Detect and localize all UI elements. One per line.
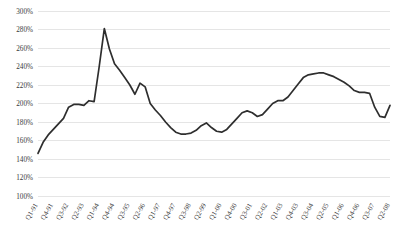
- line-chart: 100%120%140%160%180%200%220%240%260%280%…: [0, 0, 401, 244]
- gridlines: [38, 11, 390, 196]
- y-axis-tick-labels: 100%120%140%160%180%200%220%240%260%280%…: [16, 8, 33, 201]
- x-axis-tick-label: Q3-04: [299, 202, 315, 222]
- x-axis-tick-label: Q1-06: [330, 202, 346, 222]
- x-axis-tick-label: Q4-03: [284, 202, 300, 222]
- x-axis-tick-label: Q1-00: [208, 202, 224, 222]
- x-axis-tick-label: Q3-98: [177, 202, 193, 222]
- y-axis-tick-label: 120%: [16, 174, 33, 182]
- x-axis-tick-label: Q4-06: [345, 202, 361, 222]
- x-axis-tick-label: Q2-02: [253, 202, 269, 222]
- y-axis-tick-label: 140%: [16, 156, 33, 164]
- y-axis-tick-label: 100%: [16, 193, 33, 201]
- x-axis-tick-label: Q3-01: [238, 202, 254, 222]
- chart-plot-area: 100%120%140%160%180%200%220%240%260%280%…: [0, 0, 401, 244]
- y-axis-tick-label: 280%: [16, 26, 33, 34]
- x-axis-tick-labels: Q1-91Q4-91Q3-92Q2-93Q1-94Q4-94Q3-95Q2-96…: [24, 202, 392, 222]
- x-axis-tick-label: Q1-94: [85, 202, 101, 222]
- y-axis-tick-label: 180%: [16, 119, 33, 127]
- x-axis-tick-label: Q3-92: [54, 202, 70, 222]
- x-axis-tick-label: Q2-93: [70, 202, 86, 222]
- y-axis-tick-label: 260%: [16, 45, 33, 53]
- y-axis-tick-label: 240%: [16, 63, 33, 71]
- x-axis-tick-label: Q1-91: [24, 202, 40, 222]
- y-axis-tick-label: 220%: [16, 82, 33, 90]
- x-axis-tick-label: Q4-94: [100, 202, 116, 222]
- x-axis-tick-label: Q1-97: [146, 202, 162, 222]
- y-axis-tick-label: 200%: [16, 100, 33, 108]
- y-axis-tick-label: 160%: [16, 137, 33, 145]
- x-axis-tick-label: Q4-97: [162, 202, 178, 222]
- y-axis-tick-label: 300%: [16, 8, 33, 16]
- x-axis-tick-label: Q2-96: [131, 202, 147, 222]
- x-axis-tick-label: Q3-95: [116, 202, 132, 222]
- x-axis-tick-label: Q4-91: [39, 202, 55, 222]
- x-axis-tick-label: Q2-99: [192, 202, 208, 222]
- x-axis-tick-label: Q3-07: [361, 202, 377, 222]
- x-axis-tick-label: Q2-05: [315, 202, 331, 222]
- data-series-line: [38, 29, 390, 154]
- x-axis-tick-label: Q1-03: [269, 202, 285, 222]
- x-axis-tick-label: Q4-00: [223, 202, 239, 222]
- x-axis-tick-label: Q2-08: [376, 202, 392, 222]
